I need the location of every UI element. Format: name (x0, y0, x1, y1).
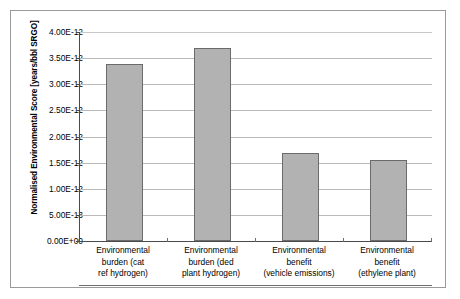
plot-area (79, 32, 432, 242)
y-axis-tick-labels: 4.00E-123.50E-123.00E-122.50E-122.00E-12… (33, 32, 83, 262)
category-label-line: Environmental (343, 245, 431, 257)
category-separator-tick (343, 238, 344, 242)
category-label-line: burden (cat (79, 257, 167, 269)
bar-slot (256, 32, 344, 241)
x-axis-category-label: Environmentalburden (dedplant hydrogen) (167, 242, 255, 285)
bar[interactable] (282, 153, 319, 241)
bar-slot (168, 32, 256, 241)
category-separator-tick (167, 238, 168, 242)
category-label-line: plant hydrogen) (167, 268, 255, 280)
category-label-line: Environmental (255, 245, 343, 257)
bar[interactable] (370, 160, 407, 241)
category-label-line: benefit (255, 257, 343, 269)
bar[interactable] (106, 64, 143, 241)
category-label-line: burden (ded (167, 257, 255, 269)
category-label-line: (vehicle emissions) (255, 268, 343, 280)
x-axis-category-label: Environmentalburden (catref hydrogen) (79, 242, 167, 285)
category-separator-tick (431, 238, 432, 242)
category-label-line: benefit (343, 257, 431, 269)
category-label-line: Environmental (167, 245, 255, 257)
bar-slot (80, 32, 168, 241)
category-separator-tick (255, 238, 256, 242)
x-axis-category-labels: Environmentalburden (catref hydrogen)Env… (79, 242, 432, 286)
chart-frame: Normalised Environmental Score [years/bb… (10, 10, 446, 288)
category-label-line: Environmental (79, 245, 167, 257)
category-label-line: (ethylene plant) (343, 268, 431, 280)
category-label-line: ref hydrogen) (79, 268, 167, 280)
x-axis-category-label: Environmentalbenefit(vehicle emissions) (255, 242, 343, 285)
x-axis-category-label: Environmentalbenefit(ethylene plant) (343, 242, 431, 285)
bar-series (80, 32, 432, 241)
bar-slot (344, 32, 432, 241)
bar[interactable] (194, 48, 231, 241)
